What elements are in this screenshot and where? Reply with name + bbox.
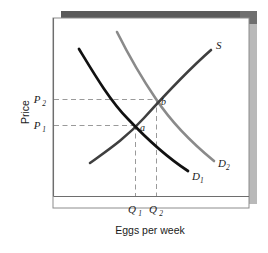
demand2-curve-label-base: D [217,157,226,169]
x-tick-q2-subscript: 2 [159,209,163,218]
y-tick-p1-subscript: 1 [42,125,46,134]
y-tick-p1: P 1 [33,119,46,134]
y-tick-p1-base: P [33,119,41,131]
point-label-a: a [140,122,145,133]
demand1-curve-label-subscript: 1 [200,176,204,185]
supply-demand-chart: Price Eggs per week P 2 P 1 Q 1 Q 2 S D … [0,0,268,253]
x-tick-q2-base: Q [149,203,157,215]
x-tick-q1-base: Q [128,203,136,215]
y-tick-p2-base: P [33,93,41,105]
y-tick-p2: P 2 [33,93,46,108]
demand1-curve-label-base: D [191,170,200,182]
y-tick-p2-subscript: 2 [42,99,46,108]
demand2-curve-label-subscript: 2 [226,163,230,172]
y-axis-title: Price [19,100,31,124]
x-tick-q1-subscript: 1 [138,209,142,218]
supply-curve-label: S [216,39,222,51]
point-label-b: b [161,96,166,107]
figure-container: Price Eggs per week P 2 P 1 Q 1 Q 2 S D … [0,0,268,253]
x-axis-title: Eggs per week [115,224,185,236]
